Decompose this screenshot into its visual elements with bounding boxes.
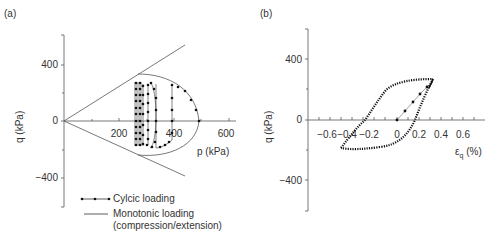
panel-b: (b) 400 0 −400 q (kPa) −0.6 −0.4 −0.2 0 … [260,8,485,211]
x-axis-label-b: εq (%) [455,146,482,160]
y-tick-label: 0 [52,115,58,126]
compression-line [64,45,185,121]
x-tick-label: 400 [166,128,183,139]
y-axis-label-b: q (kPa) [263,111,274,143]
x-axis-label-a: p (kPa) [197,146,229,157]
legend-cyclic: Cylcic loading [113,193,175,204]
panel-b-label: (b) [260,8,272,19]
y-tick-label: 400 [41,59,58,70]
x-tick-label: 0.6 [456,129,470,140]
legend-a: Cylcic loading Monotonic loading (compre… [81,193,222,231]
y-tick-label: 400 [285,54,302,65]
y-axis-label-a: q (kPa) [14,111,25,143]
x-tick-label: −0.2 [359,129,379,140]
y-tick-label: −400 [279,175,302,186]
panel-a-label: (a) [4,8,16,19]
figure: (a) 400 0 −400 q (kPa) 200 400 600 p (kP… [0,0,497,246]
y-tick-label: 0 [296,114,302,125]
x-tick-label: −0.6 [317,129,337,140]
x-tick-label: 0 [394,129,400,140]
x-tick-label: 0.4 [434,129,448,140]
legend-monotonic-sub: (compression/extension) [113,220,222,231]
x-tick-label: 200 [111,128,128,139]
panel-a: (a) 400 0 −400 q (kPa) 200 400 600 p (kP… [4,8,236,231]
x-tick-label: 0.2 [412,129,426,140]
y-tick-label: −400 [35,172,58,183]
legend-monotonic: Monotonic loading [113,208,194,219]
x-tick-label: 600 [218,128,235,139]
